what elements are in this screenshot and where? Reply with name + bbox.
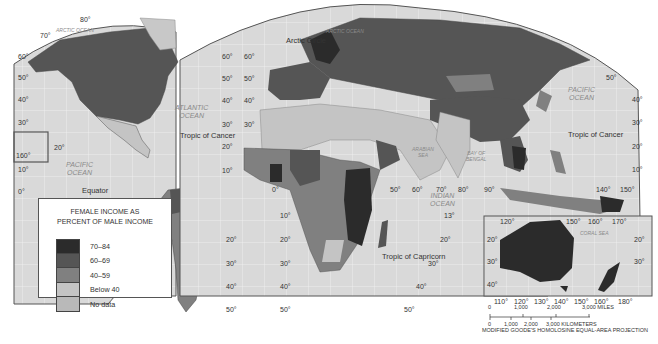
tropic-of-cancer-west-label: Tropic of Cancer xyxy=(180,131,235,140)
lat-label: 50° xyxy=(222,75,233,82)
lon-label: 90° xyxy=(484,186,495,193)
lat-label: 40° xyxy=(226,283,237,290)
arabian-line2: SEA xyxy=(418,152,428,158)
indian-ocean-label: INDIANOCEAN xyxy=(430,192,455,208)
legend-swatch xyxy=(56,268,80,283)
atlantic-line2: OCEAN xyxy=(179,112,204,119)
australia-inset xyxy=(484,216,652,296)
legend-title-line1: FEMALE INCOME AS xyxy=(39,207,171,217)
legend-swatch xyxy=(56,239,80,254)
coral-sea-label: CORAL SEA xyxy=(580,230,609,236)
lat-label: 20° xyxy=(226,236,237,243)
lat-label: 20° xyxy=(222,143,233,150)
aus-lat-label: 20° xyxy=(487,236,498,243)
legend-label: No data xyxy=(90,300,115,309)
aus-lat-label: 20° xyxy=(634,236,645,243)
arctic-ocean-east-label: ARCTIC OCEAN xyxy=(326,28,364,34)
lat-label: 10° xyxy=(632,166,643,173)
lat-label: 50° xyxy=(280,306,291,313)
map-legend: FEMALE INCOME AS PERCENT OF MALE INCOME … xyxy=(38,198,172,298)
lat-label: 40° xyxy=(18,96,29,103)
pacific-ocean-east-label: PACIFICOCEAN xyxy=(568,86,595,102)
lon-label: 140° xyxy=(596,186,610,193)
lat-label: 30° xyxy=(226,260,237,267)
legend-item-40-59: 40–59 xyxy=(56,268,120,283)
lat-label: 30° xyxy=(428,260,439,267)
lat-label: 30° xyxy=(222,121,233,128)
lat-label: 50° xyxy=(18,74,29,81)
lat-label: 40° xyxy=(632,96,643,103)
pacific-e-line2: OCEAN xyxy=(569,94,594,101)
legend-item-below-40: Below 40 xyxy=(56,283,120,298)
legend-swatch xyxy=(56,297,80,312)
bay-of-bengal-label: BAY OFBENGAL xyxy=(466,150,486,162)
lat-label: 60° xyxy=(244,53,255,60)
arctic-circle-label: Arctic Circle xyxy=(286,36,326,45)
lat-label: 30° xyxy=(280,260,291,267)
lat-label: 20° xyxy=(632,143,643,150)
hawaii-lat-label: 20° xyxy=(54,144,65,151)
lat-label: 30° xyxy=(18,119,29,126)
lat-label: 10° xyxy=(222,167,233,174)
legend-title-line2: PERCENT OF MALE INCOME xyxy=(39,217,171,227)
lat-label: 0° xyxy=(18,188,25,195)
lon-label: 0° xyxy=(272,186,279,193)
pacific-ocean-west-label: PACIFICOCEAN xyxy=(66,161,93,177)
lat-label: 40° xyxy=(280,283,291,290)
lat-label: 30° xyxy=(244,121,255,128)
legend-items: 70–84 60–69 40–59 Below 40 No data xyxy=(56,239,120,312)
lat-label: 40° xyxy=(244,97,255,104)
hawaii-lon-label: 160° xyxy=(16,152,30,159)
pacific-w-line2: OCEAN xyxy=(67,169,92,176)
aus-lat-label: 30° xyxy=(634,258,645,265)
aus-lon-label: 160° xyxy=(588,218,602,225)
arabian-sea-label: ARABIANSEA xyxy=(412,146,434,158)
lon-label: 50° xyxy=(390,186,401,193)
legend-label: 40–59 xyxy=(90,271,110,280)
lon-label: 60° xyxy=(412,186,423,193)
scale-bar xyxy=(490,314,590,320)
aus-lon-label: 110° xyxy=(494,298,508,305)
legend-swatch xyxy=(56,254,80,269)
atlantic-ocean-label: ATLANTICOCEAN xyxy=(175,104,208,120)
lat-label: 70° xyxy=(40,32,51,39)
lat-label: 20° xyxy=(440,236,451,243)
pacific-e-line1: PACIFIC xyxy=(568,86,595,93)
projection-label: MODIFIED GOODE'S HOMOLOSINE EQUAL-AREA P… xyxy=(482,327,648,333)
lat-label: 30° xyxy=(632,119,643,126)
aus-lon-label: 180° xyxy=(618,298,632,305)
aus-lon-label: 170° xyxy=(612,218,626,225)
lat-label: 50° xyxy=(226,306,237,313)
lat-label: 40° xyxy=(222,97,233,104)
arctic-ocean-label: ARCTIC OCEAN xyxy=(56,27,94,33)
scale-miles-label: 2,000 xyxy=(547,304,561,310)
lat-label: 10° xyxy=(280,212,291,219)
legend-item-60-69: 60–69 xyxy=(56,254,120,269)
legend-swatch xyxy=(56,283,80,298)
scale-miles-label: 1,000 xyxy=(514,304,528,310)
pacific-w-line1: PACIFIC xyxy=(66,161,93,168)
legend-item-70-84: 70–84 xyxy=(56,239,120,254)
lon-label: 80° xyxy=(458,186,469,193)
lat-label: 13° xyxy=(444,212,455,219)
equator-label: Equator xyxy=(82,186,108,195)
aus-lat-label: 40° xyxy=(487,281,498,288)
lat-label: 50° xyxy=(244,75,255,82)
legend-title: FEMALE INCOME AS PERCENT OF MALE INCOME xyxy=(39,207,171,227)
lat-label: 10° xyxy=(18,166,29,173)
legend-label: 70–84 xyxy=(90,242,110,251)
aus-lat-label: 30° xyxy=(487,258,498,265)
lat-label: 50° xyxy=(404,306,415,313)
tropic-of-cancer-east-label: Tropic of Cancer xyxy=(568,130,623,139)
lat-label: 40° xyxy=(416,283,427,290)
indian-line2: OCEAN xyxy=(430,200,455,207)
aus-lon-label: 150° xyxy=(566,218,580,225)
lat-label: 50° xyxy=(606,74,617,81)
legend-item-no-data: No data xyxy=(56,297,120,312)
legend-label: 60–69 xyxy=(90,256,110,265)
aus-lon-label: 120° xyxy=(500,218,514,225)
lat-label: 60° xyxy=(222,53,233,60)
bengal-line2: BENGAL xyxy=(466,156,486,162)
scale-miles-label: 3,000 MILES xyxy=(582,304,614,310)
lat-label: 80° xyxy=(80,16,91,23)
